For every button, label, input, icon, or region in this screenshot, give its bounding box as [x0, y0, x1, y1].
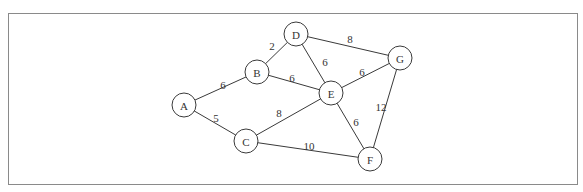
graph-canvas: 6526688661012 ABCDEFG — [0, 0, 583, 192]
node-c: C — [234, 129, 258, 153]
node-label: E — [328, 88, 335, 100]
node-label: F — [367, 154, 373, 166]
edges-layer — [184, 34, 400, 159]
node-e: E — [319, 81, 343, 105]
node-f: F — [358, 147, 382, 171]
edge-weight-label: 10 — [304, 140, 316, 152]
node-label: G — [396, 53, 404, 65]
edge-weight-label: 12 — [376, 101, 387, 113]
edge-c-e — [246, 93, 331, 141]
node-label: B — [253, 67, 260, 79]
node-d: D — [284, 22, 308, 46]
edge-weight-label: 6 — [289, 72, 295, 84]
node-label: C — [242, 136, 249, 148]
node-label: D — [292, 29, 300, 41]
edge-weight-label: 6 — [359, 66, 365, 78]
edge-weight-label: 2 — [269, 40, 275, 52]
node-a: A — [172, 93, 196, 117]
node-label: A — [180, 100, 188, 112]
edge-weight-label: 8 — [347, 33, 353, 45]
edge-weight-label: 6 — [353, 116, 359, 128]
edge-weight-label: 6 — [220, 79, 226, 91]
node-g: G — [388, 46, 412, 70]
edge-weight-label: 5 — [213, 112, 219, 124]
edge-weight-label: 8 — [276, 107, 282, 119]
node-b: B — [245, 60, 269, 84]
edge-weight-label: 6 — [322, 56, 328, 68]
nodes-layer: ABCDEFG — [172, 22, 412, 171]
